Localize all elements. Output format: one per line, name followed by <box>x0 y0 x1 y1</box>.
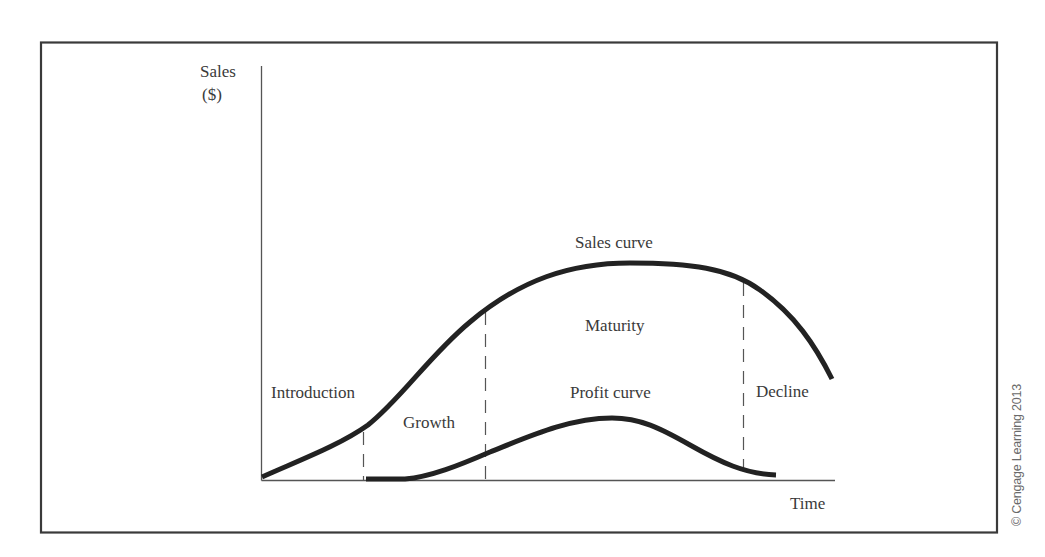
sales-curve-label: Sales curve <box>575 233 653 252</box>
stage-label-maturity: Maturity <box>585 316 645 335</box>
product-life-cycle-figure: Sales ($) Time Sales curve Profit curve … <box>0 0 1045 557</box>
copyright-notice: © Cengage Learning 2013 <box>1010 384 1024 526</box>
x-axis-label: Time <box>790 494 825 513</box>
stage-label-introduction: Introduction <box>271 383 356 402</box>
y-axis-label-unit: ($) <box>202 85 222 104</box>
stage-label-decline: Decline <box>756 382 809 401</box>
profit-curve-label: Profit curve <box>570 383 651 402</box>
sales-curve <box>262 263 832 477</box>
stage-label-growth: Growth <box>403 413 455 432</box>
y-axis-label: Sales <box>200 62 236 81</box>
